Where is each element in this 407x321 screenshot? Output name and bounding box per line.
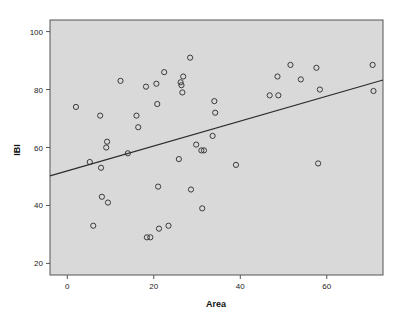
y-tick-label: 20: [34, 259, 43, 268]
x-tick-label: 60: [322, 282, 331, 291]
y-axis-title: IBI: [12, 144, 22, 156]
x-tick-label: 0: [65, 282, 70, 291]
chart-canvas: 20406080100 0204060 Area IBI: [0, 0, 407, 321]
plot-area-background: [50, 20, 383, 275]
y-tick-label: 40: [34, 201, 43, 210]
y-tick-label: 80: [34, 86, 43, 95]
y-tick-label: 60: [34, 144, 43, 153]
x-tick-label: 20: [149, 282, 158, 291]
x-axis-title: Area: [206, 299, 227, 309]
x-tick-label: 40: [236, 282, 245, 291]
scatter-plot-figure: 20406080100 0204060 Area IBI: [0, 0, 407, 321]
y-tick-label: 100: [30, 28, 44, 37]
